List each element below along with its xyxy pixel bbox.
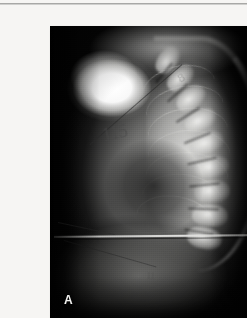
page-canvas: 115 8 11 A: [0, 0, 247, 318]
panel-label-a: A: [64, 293, 73, 307]
page-top-rule-shadow: [0, 4, 247, 5]
xray-figure-panel-a[interactable]: 115 8 11 A: [50, 26, 247, 318]
annotation-handwritten-mark-lower: 11: [146, 269, 155, 282]
radiograph-plate: 115 8 11 A: [50, 26, 247, 318]
